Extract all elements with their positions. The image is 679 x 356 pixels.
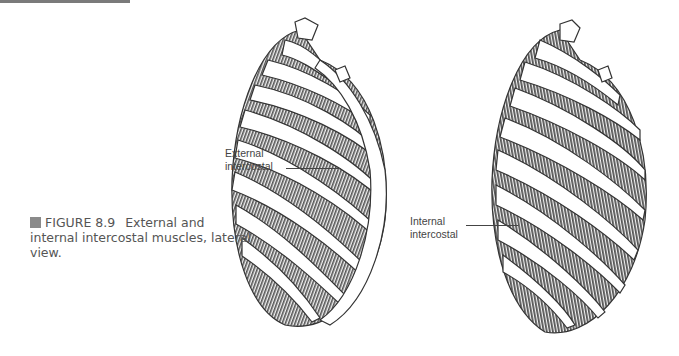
rib-cage-external-illustration (0, 0, 679, 356)
label-line: External (225, 147, 273, 160)
caption-square-icon (30, 217, 41, 228)
label-line: intercostal (225, 160, 273, 173)
caption-text: internal intercostal muscles, lateral (30, 230, 251, 245)
label-line: Internal (410, 215, 458, 228)
caption-text: view. (30, 245, 62, 260)
label-line: intercostal (410, 228, 458, 241)
figure-number: FIGURE 8.9 (45, 215, 115, 230)
caption-text: External and (125, 215, 204, 230)
figure-caption: FIGURE 8.9External and internal intercos… (30, 215, 260, 260)
internal-leader-line (466, 225, 518, 226)
external-intercostal-label: External intercostal (225, 147, 273, 173)
right-ribcage (492, 20, 646, 333)
external-leader-line (286, 168, 341, 169)
internal-intercostal-label: Internal intercostal (410, 215, 458, 241)
